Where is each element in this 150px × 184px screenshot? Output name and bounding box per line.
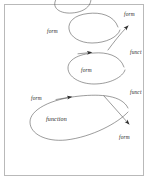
label-bottom-right-form: form	[119, 135, 130, 140]
spiral-diagram-svg	[0, 0, 150, 184]
upper-loop	[69, 13, 120, 43]
label-right-middle-funct: funct	[130, 90, 142, 95]
label-right-upper-funct: funct	[130, 50, 142, 55]
label-large-loop-function: function	[46, 116, 67, 122]
label-middle-loop-form: form	[81, 68, 92, 73]
label-upper-loop-form: form	[47, 29, 58, 34]
crossing-diagonal-lower	[104, 96, 128, 123]
label-left-lower-form: form	[31, 96, 42, 101]
large-loop-arrow-segment	[56, 97, 70, 99]
middle-loop	[68, 53, 125, 84]
crossing-diagonal-upper	[108, 27, 127, 50]
clipped-top-loop	[55, 0, 91, 13]
figure-canvas: form form funct form funct form function…	[0, 0, 150, 184]
label-top-right-form: form	[124, 12, 135, 17]
large-loop	[30, 95, 128, 140]
